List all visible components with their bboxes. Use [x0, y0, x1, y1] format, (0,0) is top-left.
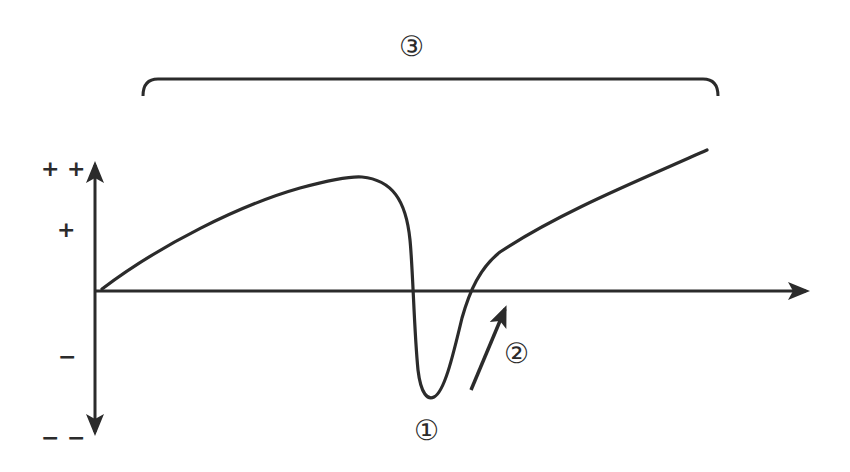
y-label-plus-plus: + + [41, 158, 86, 180]
recovery-arrow [471, 309, 505, 390]
annotation-2: ② [504, 340, 529, 368]
annotation-1: ① [414, 417, 439, 445]
diagram-canvas [0, 0, 850, 472]
y-label-minus: − [58, 346, 76, 368]
response-curve [102, 150, 707, 398]
annotation-3: ③ [399, 33, 424, 61]
brace [143, 79, 718, 96]
y-label-plus: + [57, 219, 75, 241]
y-label-minus-minus: − − [41, 427, 86, 449]
